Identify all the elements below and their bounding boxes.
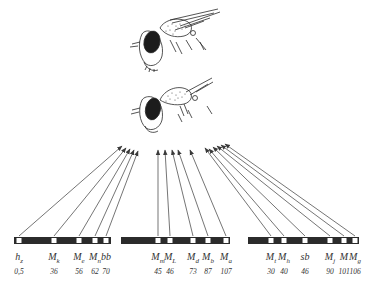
locus-symbol: Mg <box>349 252 361 266</box>
locus-marker <box>353 238 358 243</box>
locus-position: 46 <box>166 268 174 276</box>
locus-symbol: Me <box>73 252 84 266</box>
locus-arrow <box>165 150 170 236</box>
locus-arrow <box>95 150 134 236</box>
diagram-canvas <box>0 0 372 281</box>
locus-marker <box>206 238 211 243</box>
locus-marker <box>52 238 57 243</box>
locus-position: 56 <box>75 268 83 276</box>
locus-symbol: bb <box>101 252 111 262</box>
locus-symbol: sb <box>301 252 310 262</box>
arrows-group <box>19 144 355 236</box>
locus-arrow <box>205 148 271 236</box>
locus-position: 36 <box>50 268 58 276</box>
locus-marker <box>328 238 333 243</box>
locus-position: 73 <box>189 268 197 276</box>
locus-marker <box>93 238 98 243</box>
locus-marker <box>168 238 173 243</box>
locus-marker <box>303 238 308 243</box>
locus-position: 45 <box>154 268 162 276</box>
locus-symbol: ML <box>164 252 176 266</box>
locus-symbol: M <box>340 252 348 262</box>
fly-head-illustration-top <box>130 9 220 72</box>
fly-head-illustration-bottom <box>131 78 213 132</box>
locus-arrow <box>106 151 138 236</box>
locus-marker <box>17 238 22 243</box>
locus-symbol: Mt <box>266 252 276 266</box>
locus-symbol: Mh <box>278 252 290 266</box>
locus-position: 40 <box>280 268 288 276</box>
chromosome-bars <box>14 237 359 244</box>
locus-arrow <box>217 146 330 236</box>
locus-position: 107 <box>220 268 231 276</box>
locus-marker <box>269 238 274 243</box>
locus-arrow <box>221 145 344 236</box>
locus-marker <box>156 238 161 243</box>
locus-symbol: Mj <box>325 252 335 266</box>
locus-marker <box>191 238 196 243</box>
locus-marker <box>342 238 347 243</box>
locus-symbol: Mb <box>202 252 214 266</box>
locus-position: 70 <box>102 268 110 276</box>
locus-symbol: Md <box>187 252 199 266</box>
locus-marker <box>282 238 287 243</box>
locus-marker <box>77 238 82 243</box>
locus-marker <box>224 238 229 243</box>
locus-symbol: hz <box>15 252 23 266</box>
genetic-map-diagram: hz0,5Mk36Me56Mn62bb70Mm45ML46Md73Mb87Ma1… <box>0 0 372 281</box>
locus-position: 0,5 <box>14 268 23 276</box>
locus-symbol: Ma <box>220 252 232 266</box>
locus-position: 90 <box>326 268 334 276</box>
locus-position: 87 <box>204 268 212 276</box>
locus-position: 106 <box>349 268 360 276</box>
locus-symbol: Mk <box>48 252 59 266</box>
locus-arrow <box>19 146 122 236</box>
locus-symbol: Mn <box>89 252 101 266</box>
locus-arrow <box>213 147 305 236</box>
locus-marker <box>104 238 109 243</box>
locus-position: 30 <box>267 268 275 276</box>
locus-symbol: Mm <box>151 252 164 266</box>
chromosome-bar-2 <box>121 237 230 244</box>
locus-position: 46 <box>301 268 309 276</box>
locus-position: 62 <box>91 268 99 276</box>
locus-position: 101 <box>338 268 349 276</box>
